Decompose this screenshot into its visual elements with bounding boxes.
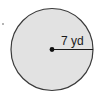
- radius-label: 7 yd: [61, 34, 84, 48]
- circle-diagram: 7 yd: [0, 0, 101, 98]
- stray-marker-dot: [2, 23, 4, 25]
- center-point: [50, 47, 55, 52]
